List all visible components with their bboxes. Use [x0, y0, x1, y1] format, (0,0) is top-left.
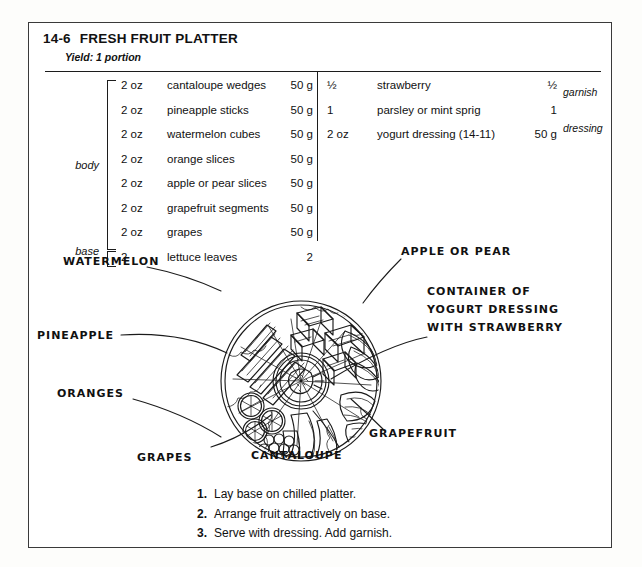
row-quantity: 1 [327, 98, 361, 123]
leader-watermelon [147, 267, 221, 291]
label-container-line1: CONTAINER OF [427, 285, 531, 298]
row-quantity: 2 oz [121, 196, 155, 221]
row-metric: ½ [517, 73, 557, 98]
step-text: Lay base on chilled platter. [214, 485, 356, 505]
step-number: 2. [197, 505, 214, 525]
row-metric: 50 g [273, 98, 313, 123]
instruction-step: 2.Arrange fruit attractively on base. [197, 505, 392, 525]
table-row: 2 oz apple or pear slices 50 g [45, 171, 313, 196]
table-row: 2 oz yogurt dressing (14-11) 50 g [321, 122, 601, 147]
row-ingredient: watermelon cubes [167, 122, 260, 147]
row-metric: 50 g [273, 196, 313, 221]
table-row: 2 oz grapefruit segments 50 g [45, 196, 313, 221]
recipe-title-text: FRESH FRUIT PLATTER [80, 31, 238, 46]
recipe-header: 14-6FRESH FRUIT PLATTER Yield: 1 portion [43, 31, 238, 63]
row-metric: 1 [517, 98, 557, 123]
row-ingredient: apple or pear slices [167, 171, 267, 196]
leader-pineapple [121, 334, 227, 353]
table-row: 2 oz pineapple sticks 50 g [45, 98, 313, 123]
row-quantity: 2 oz [121, 122, 155, 147]
instruction-list: 1.Lay base on chilled platter. 2.Arrange… [197, 485, 392, 544]
label-oranges: ORANGES [57, 387, 124, 400]
row-ingredient: yogurt dressing (14-11) [377, 122, 495, 147]
recipe-card: 14-6FRESH FRUIT PLATTER Yield: 1 portion… [28, 22, 612, 548]
recipe-yield: Yield: 1 portion [65, 51, 238, 63]
label-grapefruit: GRAPEFRUIT [369, 427, 457, 440]
row-metric: 50 g [273, 73, 313, 98]
table-top-rule [45, 71, 601, 72]
step-number: 1. [197, 485, 214, 505]
row-metric: 50 g [517, 122, 557, 147]
label-cantaloupe: CANTALOUPE [251, 449, 342, 462]
row-ingredient: strawberry [377, 73, 431, 98]
label-container-line3: WITH STRAWBERRY [427, 321, 563, 334]
row-metric: 50 g [273, 171, 313, 196]
page-title: 14-6FRESH FRUIT PLATTER [43, 31, 238, 46]
leader-oranges [133, 399, 221, 437]
row-quantity: ½ [327, 73, 361, 98]
table-row: 1 parsley or mint sprig 1 [321, 98, 601, 123]
row-ingredient: pineapple sticks [167, 98, 249, 123]
row-quantity: 2 oz [121, 73, 155, 98]
label-apple-or-pear: APPLE OR PEAR [401, 245, 511, 258]
step-text: Arrange fruit attractively on base. [214, 505, 390, 525]
platter-illustration: .ln { fill:none; stroke:#1b1b1b; stroke-… [29, 235, 613, 475]
leader-cantaloupe [313, 411, 339, 447]
step-number: 3. [197, 524, 214, 544]
ingredient-column-right: garnish dressing ½ strawberry ½ 1 parsle… [321, 73, 601, 147]
recipe-page: 14-6FRESH FRUIT PLATTER Yield: 1 portion… [0, 0, 642, 567]
row-ingredient: grapefruit segments [167, 196, 269, 221]
instruction-step: 1.Lay base on chilled platter. [197, 485, 392, 505]
row-quantity: 2 oz [327, 122, 361, 147]
row-ingredient: orange slices [167, 147, 235, 172]
recipe-number: 14-6 [43, 31, 71, 46]
table-column-divider [317, 71, 318, 241]
row-quantity: 2 oz [121, 98, 155, 123]
label-container-line2: YOGURT DRESSING [426, 303, 559, 316]
label-pineapple: PINEAPPLE [37, 329, 114, 342]
leader-apple [363, 259, 401, 303]
step-text: Serve with dressing. Add garnish. [214, 524, 392, 544]
row-metric: 50 g [273, 147, 313, 172]
label-watermelon: WATERMELON [63, 255, 159, 268]
instruction-step: 3.Serve with dressing. Add garnish. [197, 524, 392, 544]
table-row: 2 oz watermelon cubes 50 g [45, 122, 313, 147]
row-quantity: 2 oz [121, 147, 155, 172]
label-grapes: GRAPES [137, 451, 193, 464]
row-quantity: 2 oz [121, 171, 155, 196]
row-ingredient: cantaloupe wedges [167, 73, 266, 98]
table-row: 2 oz cantaloupe wedges 50 g [45, 73, 313, 98]
row-metric: 50 g [273, 122, 313, 147]
table-row: ½ strawberry ½ [321, 73, 601, 98]
row-ingredient: parsley or mint sprig [377, 98, 481, 123]
table-row: 2 oz orange slices 50 g [45, 147, 313, 172]
